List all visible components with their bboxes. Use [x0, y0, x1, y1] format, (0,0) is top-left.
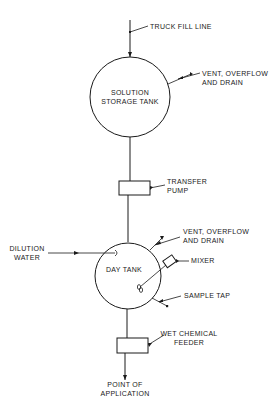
- transfer-pump: TRANSFER PUMP: [119, 178, 207, 195]
- transfer-pump-label-line2: PUMP: [167, 187, 188, 194]
- dilution-water-line: DILUTION WATER: [9, 245, 117, 261]
- pipe-feeder-to-application: [123, 353, 127, 380]
- storage-vent-label-line2: AND DRAIN: [202, 79, 243, 86]
- dilution-water-label-line1: DILUTION: [9, 245, 44, 252]
- feeder-label-line1: WET CHEMICAL: [160, 330, 217, 337]
- day-tank: DAY TANK: [95, 243, 161, 309]
- day-vent-overflow-drain: VENT, OVERFLOW AND DRAIN: [150, 228, 249, 250]
- chemical-feed-diagram: TRUCK FILL LINE SOLUTION STORAGE TANK VE…: [0, 0, 275, 414]
- day-vent-label-line2: AND DRAIN: [183, 237, 224, 244]
- transfer-pump-label-line1: TRANSFER: [167, 178, 207, 185]
- storage-vent-overflow-drain: VENT, OVERFLOW AND DRAIN: [168, 70, 268, 86]
- storage-tank-label-line1: SOLUTION: [111, 89, 149, 96]
- application-label-line1: POINT OF: [107, 381, 142, 388]
- feeder-label-line2: FEEDER: [174, 339, 204, 346]
- sample-tap-label: SAMPLE TAP: [184, 292, 230, 299]
- day-tank-label: DAY TANK: [106, 266, 142, 273]
- mixer-label: MIXER: [191, 257, 215, 264]
- truck-fill-line: TRUCK FILL LINE: [128, 20, 212, 57]
- solution-storage-tank: SOLUTION STORAGE TANK: [90, 57, 170, 137]
- mixer: MIXER: [137, 255, 214, 293]
- truck-fill-line-label: TRUCK FILL LINE: [150, 23, 212, 30]
- storage-tank-label-line2: STORAGE TANK: [101, 98, 159, 105]
- storage-vent-label-line1: VENT, OVERFLOW: [202, 70, 268, 77]
- sample-tap: SAMPLE TAP: [152, 292, 230, 307]
- wet-chemical-feeder: WET CHEMICAL FEEDER: [117, 330, 218, 353]
- application-label-line2: APPLICATION: [100, 390, 149, 397]
- point-of-application: POINT OF APPLICATION: [100, 381, 149, 397]
- dilution-water-label-line2: WATER: [14, 254, 40, 261]
- day-vent-label-line1: VENT, OVERFLOW: [183, 228, 249, 235]
